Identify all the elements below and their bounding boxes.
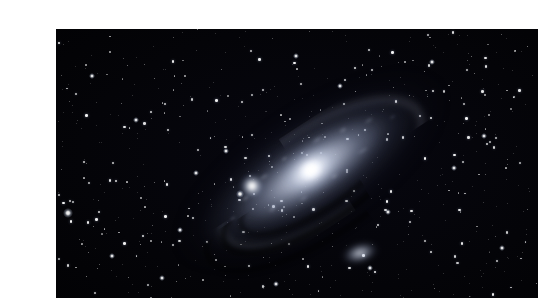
night-sky-background (56, 29, 538, 298)
andromeda-galaxy-photograph (56, 29, 538, 298)
